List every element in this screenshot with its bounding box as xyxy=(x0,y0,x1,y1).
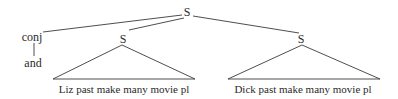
syntax-tree: S conj and S Liz past make many movie pl… xyxy=(0,0,398,99)
edge-root-conj xyxy=(43,15,182,32)
left-terminal-string: Liz past make many movie pl xyxy=(59,83,189,95)
right-s-node-label: S xyxy=(298,32,305,46)
root-node-label: S xyxy=(184,5,191,19)
right-triangle xyxy=(228,45,380,79)
left-triangle xyxy=(53,45,195,79)
left-s-node-label: S xyxy=(120,32,127,46)
conj-terminal-and: and xyxy=(24,56,41,70)
edge-root-right-s xyxy=(193,16,299,33)
edge-root-left-s xyxy=(129,18,184,30)
right-terminal-string: Dick past make many movie pl xyxy=(234,83,371,95)
conj-node-label: conj xyxy=(22,30,43,44)
